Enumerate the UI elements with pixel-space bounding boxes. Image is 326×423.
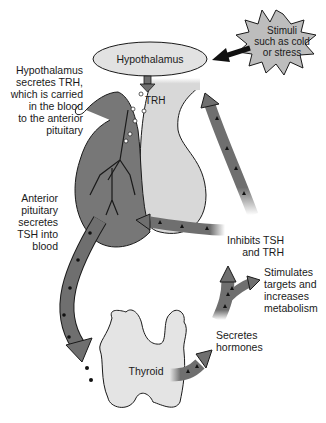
thyroid-gland: [100, 310, 187, 407]
secretes-hormones-note: Secretes hormones: [216, 329, 263, 353]
posterior-pituitary: [140, 86, 206, 233]
stimulates-note: Stimulates targets and increases metabol…: [264, 266, 318, 314]
thyroid-label: Thyroid: [118, 365, 174, 377]
inhibits-note: Inhibits TSH and TRH: [226, 234, 284, 258]
anterior-pituitary-note: Anterior pituitary secretes TSH into blo…: [0, 192, 58, 252]
stimuli-arrow: [212, 48, 250, 62]
hypothalamus-label: Hypothalamus: [103, 53, 197, 65]
tsh-arrow: [62, 220, 107, 382]
stimulates-arrow: [218, 266, 260, 320]
stimuli-label: Stimuli such as cold or stress: [252, 25, 312, 58]
hypothalamus-secretes-note: Hypothalamus secretes TRH, which is carr…: [0, 64, 83, 136]
trh-label: TRH: [145, 95, 166, 107]
inhibit-hypothalamus-arrow: [201, 93, 253, 215]
